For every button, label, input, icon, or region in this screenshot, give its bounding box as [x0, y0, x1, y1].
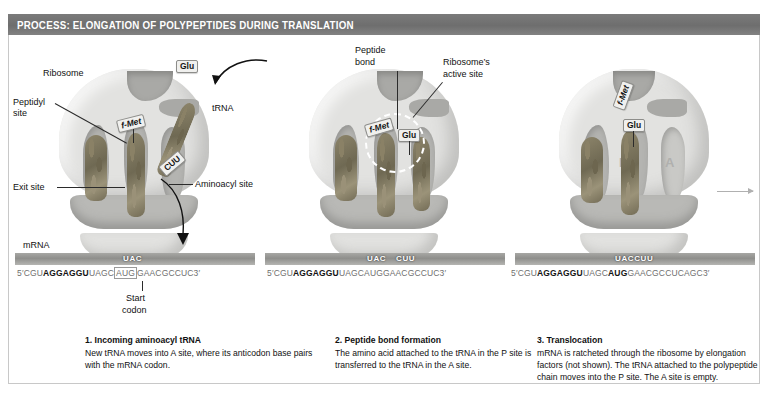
label-peptide-bond-line2: bond — [355, 57, 375, 67]
mrna-sequence-panel-3: 5′CGUAGGAGGUUAGCAUGGAACGCCUCAGC3′ — [511, 268, 710, 278]
label-start-codon-line1: Start — [126, 293, 145, 303]
panel-3-illustration: E P A f-Met Glu UACCUU — [509, 37, 759, 287]
label-trna: tRNA — [212, 103, 234, 113]
mrna-sequence-panel-1: 5′CGUAGGAGGUUAGCAUGGAACGCCUC3′ — [17, 268, 200, 278]
translocation-direction-arrow — [717, 191, 753, 192]
amino-acid-tag-glu: Glu — [398, 129, 420, 142]
mrna-spacer: UAGC — [339, 268, 364, 278]
leader-line-aminoacyl-site — [169, 184, 193, 185]
label-aminoacyl-site: Aminoacyl site — [195, 179, 253, 189]
mrna-leader: CGU — [274, 268, 293, 278]
mrna-shine-dalgarno: AGGAGGU — [43, 268, 89, 278]
leader-line-peptide-bond — [397, 71, 398, 129]
leader-line-start-codon — [142, 281, 143, 291]
mrna-3-prime: 3′ — [703, 268, 710, 278]
mrna-spacer: UAGC — [583, 268, 608, 278]
caption-panel-3: 3. Translocation mRNA is ratcheted throu… — [537, 335, 761, 383]
incoming-trna-arrow — [189, 57, 269, 107]
mrna-tail: GAACGCCUC — [137, 268, 194, 278]
label-exit-site: Exit site — [13, 182, 45, 192]
mrna-sequence-panel-2: 5′CGUAGGAGGUUAGCAUGGAACGCCUC3′ — [267, 268, 446, 278]
caption-3-body: mRNA is ratcheted through the ribosome b… — [537, 348, 758, 382]
mrna-shine-dalgarno: AGGAGGU — [293, 268, 339, 278]
trna-exit-site — [85, 135, 107, 201]
panel-1-illustration: E P A f-Met Glu CUU — [9, 37, 259, 287]
mrna-start-codon: AUG — [114, 267, 137, 279]
mrna-start-codon: AUG — [608, 268, 627, 278]
mrna-3-prime: 3′ — [194, 268, 201, 278]
trna-peptidyl-site — [127, 133, 145, 217]
mrna-shine-dalgarno: AGGAGGU — [537, 268, 583, 278]
ribosome-notch-secondary — [647, 99, 687, 117]
mrna-spacer: UAGC — [89, 268, 114, 278]
mrna-tail: GAACGCCUC — [383, 268, 440, 278]
process-figure: PROCESS: ELONGATION OF POLYPEPTIDES DURI… — [8, 14, 760, 384]
panel-2-illustration: E P A f-Met Glu Peptide bond Ribosome’s … — [259, 37, 509, 287]
polypeptide-connector — [633, 131, 634, 147]
mrna-leader: CGU — [24, 268, 43, 278]
label-peptidyl-site-line1: Peptidyl — [13, 97, 45, 107]
mrna-start-codon: AUG — [364, 268, 383, 278]
mrna-tail: GAACGCCUCAGC — [627, 268, 702, 278]
caption-2-body: The amino acid attached to the tRNA in t… — [335, 348, 531, 370]
site-letter-a: A — [665, 155, 675, 170]
anticodon-joined: UACCUU — [615, 254, 653, 263]
mrna-3-prime: 3′ — [440, 268, 447, 278]
anticodon-uac-p-site: UAC — [123, 254, 142, 263]
figure-title: PROCESS: ELONGATION OF POLYPEPTIDES DURI… — [17, 19, 354, 31]
trna-exit-site — [581, 137, 603, 203]
peptide-bond-connector — [409, 141, 410, 155]
panel-2-peptide-bond-formation: E P A f-Met Glu Peptide bond Ribosome’s … — [259, 37, 509, 383]
anticodon-pairing-arrow — [157, 177, 197, 249]
trna-exit-site — [335, 135, 357, 201]
mrna-leader: CGU — [518, 268, 537, 278]
label-active-site-line1: Ribosome’s — [443, 57, 490, 67]
label-active-site-line2: active site — [443, 69, 483, 79]
trna-peptidyl-site — [621, 131, 639, 215]
caption-3-title: 3. Translocation — [537, 335, 761, 347]
figure-header-bar: PROCESS: ELONGATION OF POLYPEPTIDES DURI… — [8, 14, 760, 35]
label-peptide-bond-line1: Peptide — [355, 45, 386, 55]
label-start-codon-line2: codon — [122, 305, 147, 315]
label-ribosome: Ribosome — [43, 68, 84, 78]
mrna-5-prime: 5′ — [267, 268, 274, 278]
leader-line-exit-site — [57, 187, 125, 188]
mrna-5-prime: 5′ — [511, 268, 518, 278]
anticodon-uac-p-site: UAC — [367, 254, 386, 263]
amino-acid-tag-glu: Glu — [623, 119, 645, 132]
label-peptidyl-site-line2: site — [13, 108, 27, 118]
panel-1-incoming-aminoacyl-trna: E P A f-Met Glu CUU — [9, 37, 259, 383]
anticodon-cuu-a-site: CUU — [396, 254, 415, 263]
fmet-attachment-line — [133, 129, 134, 143]
panel-3-translocation: E P A f-Met Glu UACCUU 5′CGUAGGAGGUUAGCA… — [509, 37, 759, 383]
label-mrna: mRNA — [23, 240, 50, 250]
mrna-5-prime: 5′ — [17, 268, 24, 278]
panels-container: E P A f-Met Glu CUU — [9, 37, 759, 383]
